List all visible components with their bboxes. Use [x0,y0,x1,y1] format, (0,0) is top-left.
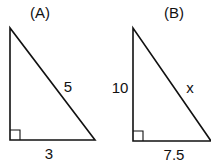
triangle-a-hypotenuse-label: 5 [64,78,72,95]
triangle-a: (A) 5 3 [10,4,95,162]
triangle-b-label: (B) [164,4,184,21]
triangle-b-base-label: 7.5 [164,146,185,163]
triangle-a-shape [10,28,95,140]
triangles-diagram: (A) 5 3 (B) 10 x 7.5 [0,0,211,165]
right-angle-marker-a [10,130,20,140]
triangle-a-base-label: 3 [45,145,53,162]
triangle-b-hypotenuse-label: x [186,79,194,96]
triangle-b-height-label: 10 [112,79,129,96]
triangle-b-shape [133,28,211,141]
right-angle-marker-b [133,131,143,141]
triangle-b: (B) 10 x 7.5 [112,4,211,163]
triangle-a-label: (A) [30,4,50,21]
